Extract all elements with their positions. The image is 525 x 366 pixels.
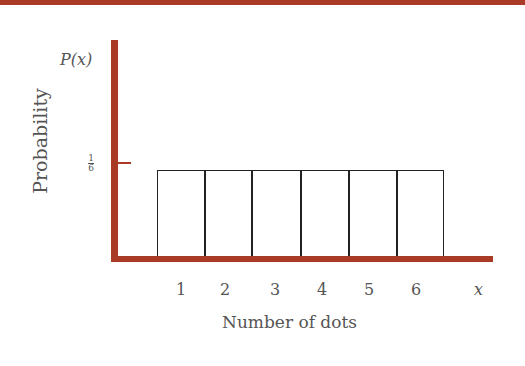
x-axis [111, 256, 493, 262]
x-tick-3: 3 [270, 280, 280, 299]
y-axis-symbol: P(x) [60, 50, 92, 69]
tick-denominator: 6 [88, 164, 94, 173]
y-tick-one-sixth [118, 162, 131, 164]
bar-6 [396, 170, 444, 258]
top-border [0, 0, 525, 5]
x-axis-label: Number of dots [222, 312, 357, 332]
y-axis [111, 40, 118, 262]
x-tick-6: 6 [411, 280, 421, 299]
bar-2 [204, 170, 253, 258]
y-axis-label: Probability [29, 81, 51, 201]
bar-5 [348, 170, 398, 258]
bar-4 [300, 170, 350, 258]
x-tick-5: 5 [364, 280, 374, 299]
tick-numerator: 1 [88, 154, 94, 163]
x-tick-1: 1 [176, 280, 186, 299]
y-tick-label: 1 6 [88, 154, 94, 173]
x-axis-symbol: x [474, 280, 483, 299]
x-tick-4: 4 [317, 280, 327, 299]
bar-1 [157, 170, 206, 258]
bar-3 [251, 170, 302, 258]
x-tick-2: 2 [220, 280, 230, 299]
